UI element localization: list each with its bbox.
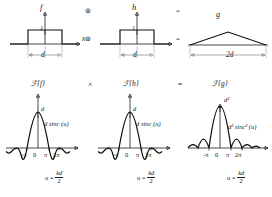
sinc-right-plot — [0, 0, 272, 197]
convolution-theorem-figure: f 1 x d ⊛ ⊛ h 1 d — [0, 0, 272, 197]
